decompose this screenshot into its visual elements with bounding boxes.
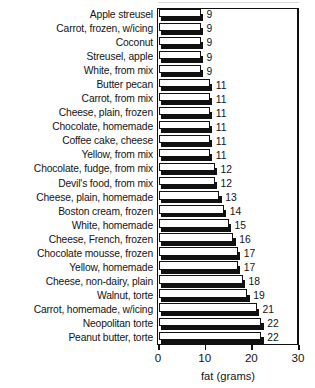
bar — [159, 37, 204, 50]
category-label: Streusel, apple — [87, 50, 153, 63]
category-label: Cheese, French, frozen — [49, 233, 153, 246]
bar-row: Cheese, non-dairy, plain18 — [0, 275, 315, 289]
bar-face — [159, 93, 210, 101]
bar-face — [159, 247, 238, 255]
x-axis-tick — [298, 345, 300, 350]
bar — [159, 261, 241, 274]
bar-face — [159, 23, 201, 31]
bar-row: Carrot, from mix11 — [0, 92, 315, 106]
bar-row: Cheese, plain, homemade13 — [0, 191, 315, 205]
bar-face — [159, 205, 224, 213]
bar-row: Carrot, frozen, w/icing9 — [0, 22, 315, 36]
bar-value-label: 15 — [235, 219, 246, 232]
bar-face — [159, 79, 210, 87]
x-axis-tick — [205, 345, 207, 350]
bar — [159, 233, 237, 246]
bar-value-label: 11 — [216, 79, 227, 92]
bar-face — [159, 51, 201, 59]
category-label: Devil's food, from mix — [58, 177, 153, 190]
bar-row: Walnut, torte19 — [0, 289, 315, 303]
bar-face — [159, 37, 201, 45]
bar — [159, 65, 204, 78]
bar-row: Devil's food, from mix12 — [0, 177, 315, 191]
category-label: Carrot, from mix — [82, 92, 153, 105]
category-label: Chocolate mousse, frozen — [37, 247, 153, 260]
bar — [159, 93, 213, 106]
bar-value-label: 11 — [216, 93, 227, 106]
bar-face — [159, 107, 210, 115]
bar-value-label: 22 — [267, 331, 278, 344]
bar — [159, 318, 265, 331]
clipped-top-rule — [158, 2, 299, 3]
bar — [159, 275, 246, 288]
bar-row: Carrot, homemade, w/icing21 — [0, 303, 315, 317]
bar-value-label: 22 — [267, 317, 278, 330]
bar-row: Peanut butter, torte22 — [0, 331, 315, 345]
bar-value-label: 11 — [216, 149, 227, 162]
bar-row: White, from mix9 — [0, 64, 315, 78]
bar-value-label: 14 — [230, 205, 241, 218]
category-label: Apple streusel — [90, 8, 153, 21]
bar-value-label: 21 — [263, 303, 274, 316]
bar-value-label: 17 — [244, 247, 255, 260]
bar-value-label: 11 — [216, 121, 227, 134]
bar-row: Chocolate, homemade11 — [0, 120, 315, 134]
bar-face — [159, 9, 201, 17]
bar-row: Streusel, apple9 — [0, 50, 315, 64]
bar-row: Chocolate mousse, frozen17 — [0, 247, 315, 261]
x-axis-title: fat (grams) — [201, 369, 255, 383]
x-axis: fat (grams) 0102030 — [157, 345, 299, 388]
bar — [159, 135, 213, 148]
category-label: Carrot, homemade, w/icing — [34, 303, 153, 316]
category-label: Yellow, homemade — [69, 261, 153, 274]
fat-content-bar-chart: Apple streusel9Carrot, frozen, w/icing9C… — [0, 0, 315, 388]
category-label: Cheese, plain, homemade — [36, 191, 153, 204]
x-axis-tick-label: 0 — [155, 351, 161, 365]
bar-value-label: 16 — [239, 233, 250, 246]
bar — [159, 177, 218, 190]
bar-row: Neopolitan torte22 — [0, 317, 315, 331]
bar — [159, 107, 213, 120]
bar — [159, 121, 213, 134]
bar-face — [159, 177, 215, 185]
bar — [159, 247, 241, 260]
bar-value-label: 19 — [253, 289, 264, 302]
bar-row: Boston cream, frozen14 — [0, 205, 315, 219]
bar-face — [159, 275, 243, 283]
bar-face — [159, 233, 234, 241]
bar-value-label: 12 — [221, 163, 232, 176]
category-label: Cheese, plain, frozen — [59, 106, 153, 119]
bar-value-label: 17 — [244, 261, 255, 274]
bar-face — [159, 219, 229, 227]
x-axis-tick-label: 30 — [292, 351, 305, 365]
bar — [159, 51, 204, 64]
x-axis-tick — [251, 345, 253, 350]
bar-face — [159, 65, 201, 73]
bar-face — [159, 303, 257, 311]
bar-row: Chocolate, fudge, from mix12 — [0, 162, 315, 176]
bar — [159, 163, 218, 176]
category-label: Yellow, from mix — [81, 148, 153, 161]
bar-face — [159, 135, 210, 143]
category-label: Coffee cake, cheese — [62, 134, 153, 147]
bar-row: Yellow, from mix11 — [0, 148, 315, 162]
bar — [159, 9, 204, 22]
bar-value-label: 9 — [207, 8, 213, 21]
bar — [159, 191, 223, 204]
bar-rows-container: Apple streusel9Carrot, frozen, w/icing9C… — [0, 8, 315, 345]
bar-value-label: 9 — [207, 65, 213, 78]
category-label: White, from mix — [84, 64, 153, 77]
x-axis-tick-label: 20 — [245, 351, 258, 365]
bar-row: Coffee cake, cheese11 — [0, 134, 315, 148]
category-label: Chocolate, fudge, from mix — [34, 162, 153, 175]
bar — [159, 332, 265, 345]
category-label: White, homemade — [72, 219, 153, 232]
bar-value-label: 9 — [207, 51, 213, 64]
bar-row: Cheese, French, frozen16 — [0, 233, 315, 247]
bar-row: White, homemade15 — [0, 219, 315, 233]
bar-face — [159, 191, 220, 199]
bar-face — [159, 121, 210, 129]
bar-row: Cheese, plain, frozen11 — [0, 106, 315, 120]
category-label: Cheese, non-dairy, plain — [46, 275, 153, 288]
bar-value-label: 12 — [221, 177, 232, 190]
